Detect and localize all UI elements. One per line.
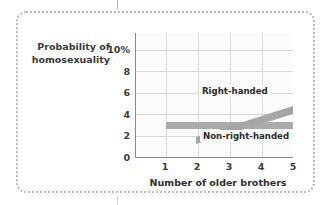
y-tick-label-10: 10% bbox=[96, 44, 130, 55]
figure-container: Probability of homosexuality 10% 8 6 4 2… bbox=[0, 0, 331, 205]
series-label-right-handed: Right-handed bbox=[199, 85, 271, 97]
x-axis-title: Number of older brothers bbox=[133, 177, 303, 188]
x-tick-label-4: 4 bbox=[251, 161, 271, 172]
x-tick-label-2: 2 bbox=[187, 161, 207, 172]
x-tick-label-5: 5 bbox=[283, 161, 303, 172]
y-tick-label-0: 0 bbox=[96, 152, 130, 163]
plot-area: Right-handed Non-right-handed bbox=[135, 33, 293, 158]
x-tick-label-1: 1 bbox=[155, 161, 175, 172]
y-tick-label-6: 6 bbox=[96, 87, 130, 98]
x-tick-label-3: 3 bbox=[219, 161, 239, 172]
y-axis-title-line-2: homosexuality bbox=[22, 54, 110, 67]
y-tick-label-2: 2 bbox=[96, 130, 130, 141]
y-tick-label-4: 4 bbox=[96, 109, 130, 120]
bottom-crop-tick bbox=[117, 196, 118, 205]
y-tick-label-8: 8 bbox=[96, 66, 130, 77]
series-label-non-right-handed: Non-right-handed bbox=[200, 130, 292, 142]
top-crop-tick bbox=[117, 0, 118, 9]
